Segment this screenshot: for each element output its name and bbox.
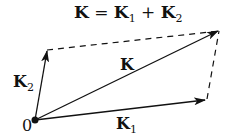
vector-k2-arrow [35,51,47,120]
vector-k-arrow [35,31,218,120]
label-k1-sub: 1 [130,123,137,135]
dashed-edge-right [207,31,219,99]
label-k2-main: K [13,72,27,91]
label-k1: K1 [116,114,137,135]
label-k2: K2 [13,72,34,94]
label-k1-main: K [116,114,130,133]
label-k-main: K [120,55,134,74]
origin-dot [32,117,39,124]
origin-label: 0 [22,116,32,135]
dashed-edge-top [47,31,219,50]
label-k: K [120,55,134,74]
label-k2-sub: 2 [27,81,34,94]
